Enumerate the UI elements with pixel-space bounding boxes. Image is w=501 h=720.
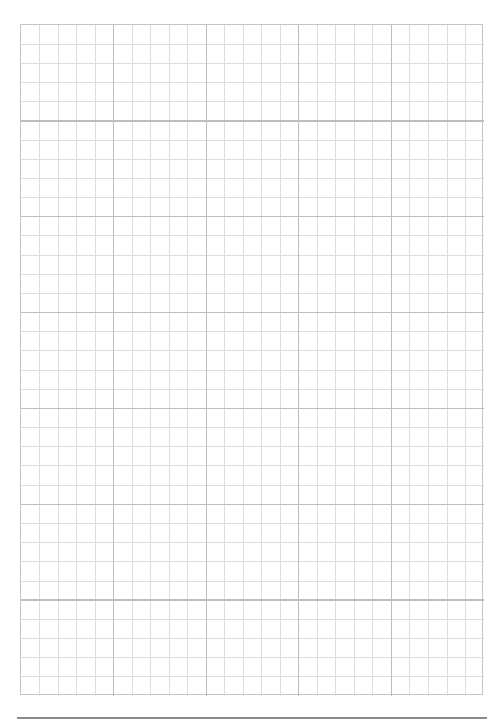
graph-paper-grid: [20, 24, 483, 695]
grid-lines: [21, 25, 484, 696]
bottom-rule: [17, 717, 487, 719]
